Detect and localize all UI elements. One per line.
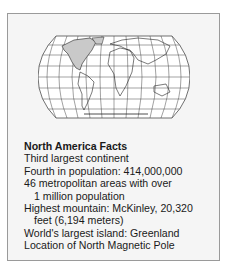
fact-line: Third largest continent [24, 152, 224, 164]
fact-line: feet (6,194 meters) [24, 214, 224, 226]
fact-line: Location of North Magnetic Pole [24, 239, 224, 251]
facts-list: North America Facts Third largest contin… [24, 140, 224, 252]
fact-line: 46 metropolitan areas with over [24, 177, 224, 189]
fact-line: 1 million population [24, 190, 224, 202]
fact-line: Highest mountain: McKinley, 20,320 [24, 202, 224, 214]
fact-line: World's largest island: Greenland [24, 227, 224, 239]
facts-card: North America Facts Third largest contin… [7, 13, 220, 261]
facts-title: North America Facts [24, 140, 224, 152]
fact-line: Fourth in population: 414,000,000 [24, 165, 224, 177]
world-map [38, 34, 190, 120]
